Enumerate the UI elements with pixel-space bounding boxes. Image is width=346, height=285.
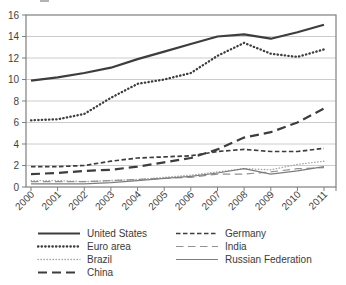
- legend-label-brazil: Brazil: [87, 254, 112, 265]
- legend-label-united-states: United States: [87, 228, 147, 239]
- series-line-russian-federation: [31, 167, 324, 184]
- legend-label-germany: Germany: [225, 228, 266, 239]
- legend-swatch-brazil: [37, 255, 81, 264]
- series-line-india: [31, 168, 324, 182]
- legend-swatch-russian-federation: [175, 255, 219, 264]
- legend-swatch-china: [37, 268, 81, 277]
- gdp-line-chart-figure: 0246810121416200020012002200320042005200…: [0, 0, 346, 285]
- x-tick-label: 2011: [306, 188, 329, 211]
- x-tick-label: 2007: [199, 188, 223, 212]
- series-line-china: [31, 109, 324, 175]
- legend-item-united-states: United States: [37, 227, 175, 240]
- legend-item-russian-federation: Russian Federation: [175, 253, 312, 266]
- legend-swatch-india: [175, 242, 219, 251]
- legend-column-2: GermanyIndiaRussian Federation: [175, 227, 312, 266]
- chart-legend: United StatesEuro areaBrazilChina German…: [37, 227, 312, 279]
- y-tick-label: 4: [13, 139, 19, 150]
- legend-item-euro-area: Euro area: [37, 240, 175, 253]
- legend-item-china: China: [37, 266, 175, 279]
- legend-item-brazil: Brazil: [37, 253, 175, 266]
- series-line-united-states: [31, 25, 324, 81]
- legend-label-india: India: [225, 241, 247, 252]
- y-tick-label: 14: [8, 31, 20, 42]
- x-tick-label: 2002: [66, 188, 90, 212]
- x-tick-label: 2003: [93, 188, 117, 212]
- y-tick-label: 2: [13, 160, 19, 171]
- y-tick-label: 12: [8, 53, 20, 64]
- x-tick-label: 2010: [279, 188, 303, 212]
- series-line-euro-area: [31, 43, 324, 120]
- x-tick-label: 2004: [120, 188, 144, 212]
- x-tick-label: 2001: [40, 188, 64, 212]
- x-tick-label: 2008: [226, 188, 250, 212]
- legend-label-china: China: [87, 267, 113, 278]
- legend-label-russian-federation: Russian Federation: [225, 254, 312, 265]
- chart-svg: 0246810121416200020012002200320042005200…: [0, 0, 346, 216]
- legend-swatch-germany: [175, 229, 219, 238]
- legend-swatch-euro-area: [37, 242, 81, 251]
- x-tick-label: 2009: [253, 188, 277, 212]
- legend-column-1: United StatesEuro areaBrazilChina: [37, 227, 175, 279]
- legend-item-india: India: [175, 240, 312, 253]
- y-tick-label: 0: [13, 182, 19, 193]
- y-tick-label: 6: [13, 117, 19, 128]
- y-tick-label: 8: [13, 96, 19, 107]
- y-tick-label: 16: [8, 10, 20, 21]
- legend-label-euro-area: Euro area: [87, 241, 131, 252]
- series-line-germany: [31, 148, 324, 166]
- x-tick-label: 2006: [173, 188, 197, 212]
- x-tick-label: 2005: [146, 188, 170, 212]
- legend-swatch-united-states: [37, 229, 81, 238]
- y-tick-label: 10: [8, 74, 20, 85]
- legend-item-germany: Germany: [175, 227, 312, 240]
